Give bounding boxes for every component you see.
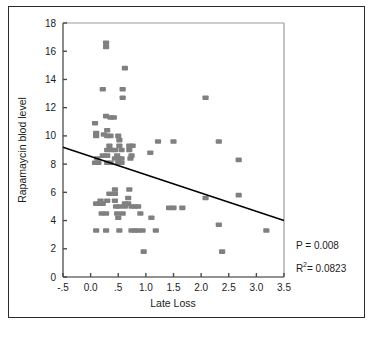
r-squared-value: = 0.0823 <box>307 263 347 274</box>
y-tick-label: 0 <box>50 272 56 283</box>
data-point <box>120 87 126 92</box>
y-tick-label: 14 <box>45 74 57 85</box>
x-tick-label: 1.5 <box>167 282 181 293</box>
data-point <box>126 148 132 153</box>
data-point <box>179 206 185 211</box>
data-point <box>111 115 117 120</box>
data-point <box>135 204 141 209</box>
x-tick-label: 3.0 <box>249 282 263 293</box>
data-point <box>112 199 118 204</box>
data-point <box>263 228 269 233</box>
y-tick-label: 16 <box>45 46 57 57</box>
figure-container: 024681012141618 -.50.0.51.01.52.02.53.03… <box>0 0 376 338</box>
data-point <box>236 193 242 198</box>
data-point <box>202 196 208 201</box>
data-point <box>116 228 122 233</box>
x-tick-label: .5 <box>114 282 123 293</box>
data-point <box>216 222 222 227</box>
r-squared-annotation: R 2 = 0.0823 <box>296 261 347 274</box>
data-point <box>170 139 176 144</box>
data-point <box>137 211 143 216</box>
data-point <box>126 187 132 192</box>
data-point <box>103 40 109 45</box>
x-tick-label: 2.0 <box>194 282 208 293</box>
data-point <box>116 204 122 209</box>
x-tick-label: 1.0 <box>139 282 153 293</box>
data-point <box>120 211 126 216</box>
x-axis-ticks: -.50.0.51.01.52.02.53.03.5 <box>57 273 291 293</box>
x-tick-label: -.5 <box>57 282 69 293</box>
data-point <box>153 228 159 233</box>
data-point <box>115 215 121 220</box>
data-point <box>219 249 225 254</box>
data-point <box>125 196 131 201</box>
data-point <box>127 156 133 161</box>
y-tick-label: 4 <box>50 215 56 226</box>
y-tick-label: 12 <box>45 102 57 113</box>
data-point <box>141 249 147 254</box>
data-point <box>100 201 106 206</box>
data-point <box>118 160 124 165</box>
data-point <box>107 134 113 139</box>
data-point <box>115 134 121 139</box>
data-point <box>118 156 124 161</box>
data-point <box>122 204 128 209</box>
data-point <box>116 138 122 143</box>
data-point <box>122 66 128 71</box>
data-point <box>112 191 118 196</box>
data-point <box>103 45 109 50</box>
data-point <box>95 160 101 165</box>
y-tick-label: 18 <box>45 18 57 29</box>
data-point <box>104 128 110 133</box>
y-tick-label: 10 <box>45 130 57 141</box>
data-point <box>147 151 153 156</box>
data-point <box>104 153 110 158</box>
data-point <box>130 143 136 148</box>
data-point <box>216 139 222 144</box>
data-point <box>170 206 176 211</box>
data-point <box>155 139 161 144</box>
data-point <box>112 148 118 153</box>
data-point <box>114 211 120 216</box>
data-point <box>106 191 112 196</box>
scatter-plot: 024681012141618 -.50.0.51.01.52.02.53.03… <box>0 0 376 338</box>
x-tick-label: 3.5 <box>277 282 291 293</box>
data-point <box>103 228 109 233</box>
x-tick-label: 2.5 <box>222 282 236 293</box>
data-points <box>92 40 269 253</box>
data-point <box>103 211 109 216</box>
data-point <box>118 148 124 153</box>
data-point <box>92 121 98 126</box>
p-value-annotation: P = 0.008 <box>296 240 339 251</box>
y-tick-label: 2 <box>50 243 56 254</box>
plot-axes <box>63 23 284 277</box>
data-point <box>93 134 99 139</box>
data-point <box>93 228 99 233</box>
y-axis-title: Rapamaycin blod level <box>16 97 28 203</box>
data-point <box>120 95 126 100</box>
y-tick-label: 6 <box>50 187 56 198</box>
data-point <box>139 228 145 233</box>
data-point <box>106 143 112 148</box>
x-tick-label: 0.0 <box>84 282 98 293</box>
data-point <box>202 95 208 100</box>
data-point <box>236 158 242 163</box>
data-point <box>112 187 118 192</box>
data-point <box>100 87 106 92</box>
x-axis-title: Late Loss <box>150 297 196 309</box>
y-tick-label: 8 <box>50 159 56 170</box>
data-point <box>148 215 154 220</box>
data-point <box>116 143 122 148</box>
